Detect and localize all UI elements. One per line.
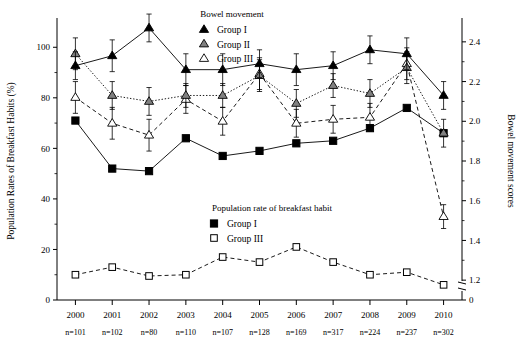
data-point-open-square [293, 244, 300, 251]
sample-size-label: n=102 [102, 328, 123, 337]
x-axis-tick-label: 2000 [66, 310, 85, 320]
sample-size-label: n=317 [323, 328, 344, 337]
right-axis-tick-label: 1.6 [469, 196, 481, 206]
data-point-filled-square [72, 117, 79, 124]
x-axis-tick-label: 2005 [251, 310, 270, 320]
sample-size-label: n=80 [141, 328, 158, 337]
data-point-filled-square [109, 165, 116, 172]
x-axis-tick-label: 2001 [103, 310, 121, 320]
data-point-open-square [146, 273, 153, 280]
y-axis-title: Population Rates of Breakfast Habits (%) [6, 82, 17, 240]
right-axis-tick-label: 1.4 [469, 236, 481, 246]
x-axis-tick-label: 2003 [177, 310, 196, 320]
legend-item-label: Group III [227, 234, 263, 244]
x-axis-tick-label: 2008 [361, 310, 380, 320]
x-axis-tick-label: 2010 [435, 310, 454, 320]
right-axis-tick-label: 2.2 [469, 77, 480, 87]
y2-axis-title: Bowel movement scores [506, 114, 516, 208]
data-point-open-square [256, 259, 263, 266]
x-axis-tick-label: 2006 [287, 310, 306, 320]
right-axis-tick-label: 1.8 [469, 156, 481, 166]
data-point-filled-square [403, 104, 410, 111]
right-axis-tick-label: 2.4 [469, 37, 481, 47]
left-axis-tick-label: 20 [41, 245, 51, 255]
x-axis-tick-label: 2009 [398, 310, 417, 320]
bowel-movement-breakfast-chart: 0204060801001.21.41.61.82.02.22.402000n=… [0, 0, 521, 361]
left-axis-tick-label: 60 [41, 144, 51, 154]
sample-size-label: n=107 [212, 328, 233, 337]
sample-size-label: n=101 [65, 328, 86, 337]
sample-size-label: n=224 [360, 328, 381, 337]
sample-size-label: n=169 [286, 328, 307, 337]
data-point-filled-square [219, 152, 226, 159]
data-point-open-square [109, 264, 116, 271]
right-axis-tick-label: 2.0 [469, 116, 481, 126]
data-point-filled-square [330, 137, 337, 144]
x-axis-tick-label: 2004 [214, 310, 233, 320]
left-axis-tick-label: 100 [37, 42, 51, 52]
data-point-filled-square [182, 135, 189, 142]
sample-size-label: n=302 [433, 328, 454, 337]
sample-size-label: n=237 [397, 328, 418, 337]
x-axis-tick-label: 2007 [324, 310, 343, 320]
right-axis-tick-label: 1.2 [469, 275, 480, 285]
legend-item-label: Group II [217, 40, 250, 50]
data-point-filled-square [145, 168, 152, 175]
data-point-open-square [330, 259, 337, 266]
data-point-open-square [72, 271, 79, 278]
x-axis-tick-label: 2002 [140, 310, 158, 320]
data-point-open-square [440, 282, 447, 289]
data-point-open-square [367, 271, 374, 278]
data-point-open-square [183, 271, 190, 278]
sample-size-label: n=110 [176, 328, 196, 337]
legend-item-label: Group III [217, 54, 253, 64]
chart-root: 0204060801001.21.41.61.82.02.22.402000n=… [0, 0, 521, 361]
sample-size-label: n=128 [249, 328, 270, 337]
data-point-open-square [403, 269, 410, 276]
right-axis-zero-label: 0 [469, 295, 474, 305]
legend-item-label: Group I [227, 219, 257, 229]
legend-marker-filled-square [210, 220, 217, 227]
legend-item-label: Group I [217, 25, 247, 35]
legend-marker-open-square [211, 235, 218, 242]
legend-title: Bowel movement [200, 9, 264, 19]
left-axis-tick-label: 40 [41, 194, 51, 204]
left-axis-tick-label: 80 [41, 93, 51, 103]
legend-title: Population rate of breakfast habit [212, 203, 332, 213]
data-point-filled-square [293, 140, 300, 147]
data-point-filled-square [256, 147, 263, 154]
left-axis-tick-label: 0 [46, 295, 51, 305]
data-point-open-square [219, 254, 226, 261]
